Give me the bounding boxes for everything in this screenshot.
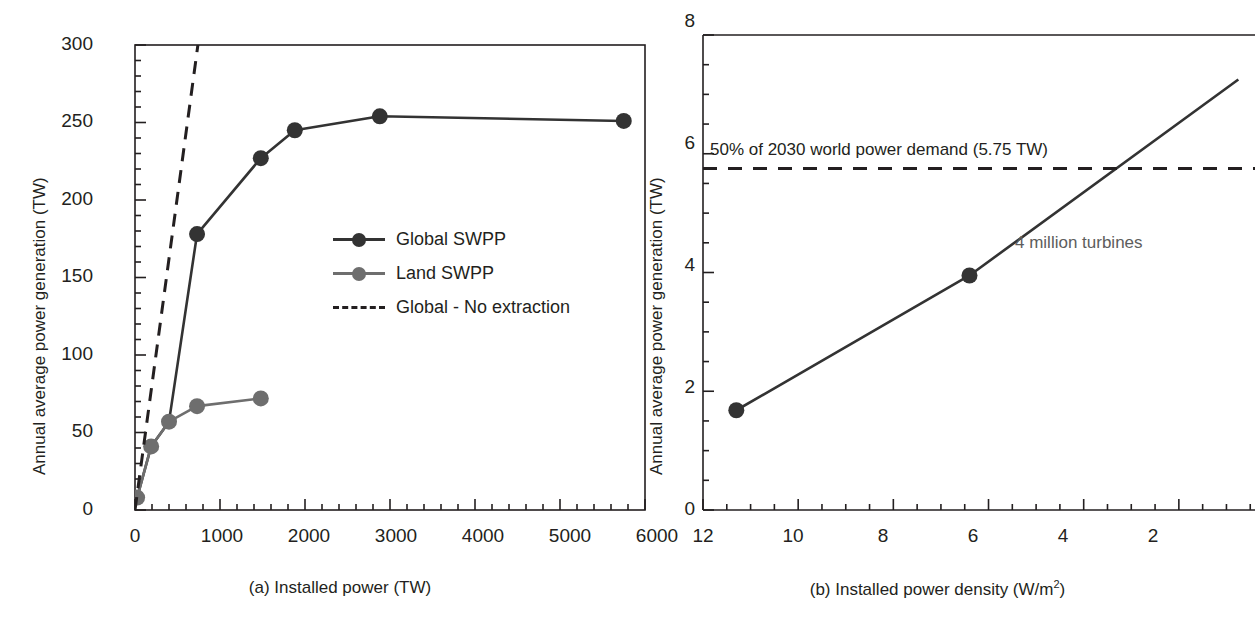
legend-item-global-swpp: Global SWPP	[333, 222, 570, 256]
legend-key-no-extraction	[333, 298, 385, 316]
legend-item-no-extraction: Global - No extraction	[333, 290, 570, 324]
data-point	[189, 398, 205, 414]
panel-b-caption-suffix: )	[1060, 580, 1066, 599]
data-point	[728, 402, 744, 418]
panel-b-caption: (b) Installed power density (W/m2)	[620, 578, 1255, 600]
panel-b-plot	[620, 0, 1255, 628]
data-point	[961, 267, 977, 283]
data-point	[161, 414, 177, 430]
panel-b-series-group	[703, 80, 1255, 419]
panel-b-caption-prefix: (b) Installed power density (W/m	[810, 580, 1054, 599]
data-point	[189, 226, 205, 242]
legend-item-land-swpp: Land SWPP	[333, 256, 570, 290]
data-point	[372, 108, 388, 124]
data-point	[287, 122, 303, 138]
figure-root: Annual average power generation (TW) 300…	[0, 0, 1255, 628]
panel-b-turbine-count-label: 4 million turbines	[1015, 233, 1143, 253]
legend-key-global-swpp	[333, 230, 385, 248]
panel-a-legend: Global SWPP Land SWPP Global - No extrac…	[333, 222, 570, 324]
legend-label-global-swpp: Global SWPP	[396, 229, 506, 250]
panel-a: Annual average power generation (TW) 300…	[0, 0, 680, 628]
series-line-global-swpp	[736, 80, 1238, 411]
data-point	[253, 150, 269, 166]
panel-b: Annual average power generation (TW) 8 6…	[620, 0, 1255, 628]
panel-a-caption: (a) Installed power (TW)	[0, 578, 680, 598]
panel-b-demand-line-label: 50% of 2030 world power demand (5.75 TW)	[710, 140, 1048, 160]
data-point	[253, 390, 269, 406]
legend-label-no-extraction: Global - No extraction	[396, 297, 570, 318]
legend-label-land-swpp: Land SWPP	[396, 263, 494, 284]
legend-key-land-swpp	[333, 264, 385, 282]
